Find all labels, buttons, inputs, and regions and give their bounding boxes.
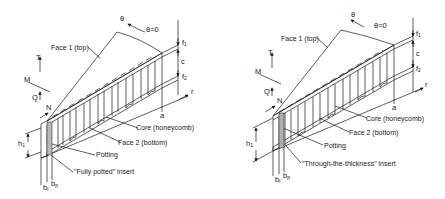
face2-label: Face 2 (bottom) bbox=[349, 129, 398, 137]
h1-label: h1 bbox=[246, 140, 253, 149]
insert-type-label: "Fully potted" insert bbox=[74, 168, 134, 176]
bi-label: bi bbox=[43, 184, 48, 193]
m-load-label: M bbox=[24, 76, 30, 84]
theta-zero-label: θ=0 bbox=[146, 26, 159, 34]
face2-label: Face 2 (bottom) bbox=[118, 139, 167, 147]
face1-label: Face 1 (top) bbox=[281, 35, 319, 43]
face1-label: Face 1 (top) bbox=[51, 44, 89, 52]
theta-label: θ bbox=[120, 15, 124, 23]
core-label: Core (honeycomb) bbox=[136, 124, 194, 132]
f1-label: f1 bbox=[416, 30, 421, 39]
theta-zero-label: θ=0 bbox=[374, 22, 387, 30]
diagram-through-thickness-insert: Face 1 (top) θ θ=0 f1 c f2 r a T M Q N C… bbox=[223, 0, 445, 199]
t-load-label: T bbox=[268, 49, 273, 57]
r-axis-label: r bbox=[191, 88, 194, 96]
n-load-label: N bbox=[46, 104, 51, 112]
a-label: a bbox=[160, 112, 164, 120]
h1-label: h1 bbox=[18, 140, 25, 149]
core-label: Core (honeycomb) bbox=[366, 115, 424, 123]
bp-label: bp bbox=[283, 172, 290, 181]
a-label: a bbox=[392, 104, 396, 112]
q-load-label: Q bbox=[32, 94, 38, 102]
f1-label: f1 bbox=[182, 39, 187, 48]
m-load-label: M bbox=[255, 68, 261, 76]
bp-label: bp bbox=[51, 180, 58, 189]
sandwich-panel-drawing-right bbox=[223, 0, 445, 199]
q-load-label: Q bbox=[264, 88, 270, 96]
theta-label: θ bbox=[351, 11, 355, 19]
f2-label: f2 bbox=[182, 73, 187, 82]
c-label: c bbox=[416, 50, 420, 58]
r-axis-label: r bbox=[425, 81, 428, 89]
t-load-label: T bbox=[36, 54, 41, 62]
potting-label: Potting bbox=[324, 142, 346, 150]
bi-label: bi bbox=[275, 176, 280, 185]
insert-type-label: "Through-the-thickness" insert bbox=[302, 160, 396, 168]
f2-label: f2 bbox=[416, 65, 421, 74]
diagram-fully-potted-insert: Face 1 (top) θ θ=0 f1 c f2 r a T M Q N C… bbox=[0, 0, 222, 199]
n-load-label: N bbox=[277, 97, 282, 105]
potting-label: Potting bbox=[96, 151, 118, 159]
c-label: c bbox=[181, 58, 185, 66]
